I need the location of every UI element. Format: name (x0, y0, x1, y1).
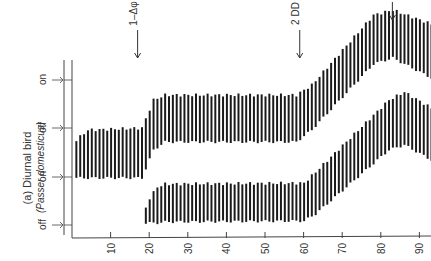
actogram-plot (0, 0, 431, 261)
x-tick-label: 30 (182, 239, 193, 259)
panel-title: (a) Diurnal bird (21, 113, 33, 223)
x-tick-label: 70 (337, 239, 348, 259)
state-label-on-1: on (37, 70, 48, 90)
state-label-off-2: off (37, 215, 48, 235)
x-tick-label: 80 (375, 239, 386, 259)
x-tick-label: 50 (260, 239, 271, 259)
x-tick-label: 60 (298, 239, 309, 259)
x-tick-label: 40 (221, 239, 232, 259)
annotation-phase-shift: 1–Δφ (128, 0, 139, 29)
x-tick-label: 10 (105, 239, 116, 259)
x-tick-label: 20 (144, 239, 155, 259)
x-tick-label: 90 (414, 239, 425, 259)
annotation-dd: 2 DD (290, 0, 301, 29)
state-label-on-2: on (37, 167, 48, 187)
state-label-off-1: off (37, 118, 48, 138)
actogram-figure: (a) Diurnal bird (Passer domesticus) on … (0, 0, 431, 261)
